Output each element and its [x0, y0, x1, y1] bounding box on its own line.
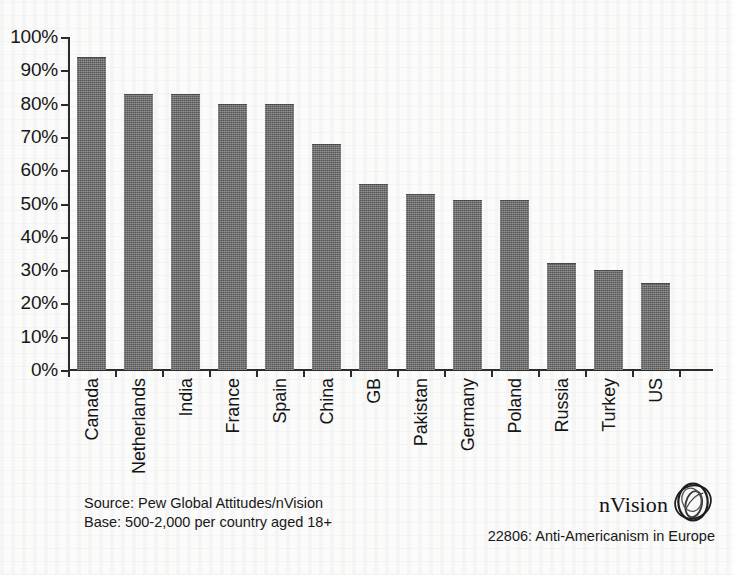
x-label-netherlands: Netherlands: [115, 378, 162, 483]
x-label-text: Netherlands: [128, 378, 149, 474]
bar-slot: [162, 37, 209, 370]
bar-pakistan[interactable]: [406, 194, 435, 370]
y-tick-mark: [61, 137, 68, 139]
y-tick-mark: [61, 303, 68, 305]
bar-slot: [256, 37, 303, 370]
y-tick-mark: [61, 337, 68, 339]
bars-group: [68, 37, 713, 370]
x-label-turkey: Turkey: [585, 378, 632, 483]
x-tick-mark: [68, 371, 70, 377]
bar-gb[interactable]: [359, 184, 388, 370]
bar-spain[interactable]: [265, 104, 294, 370]
y-tick-mark: [61, 237, 68, 239]
y-tick-mark: [61, 204, 68, 206]
bar-india[interactable]: [171, 94, 200, 370]
x-tick-mark: [538, 371, 540, 377]
x-label-text: India: [175, 378, 196, 417]
x-label-china: China: [303, 378, 350, 483]
x-tick-mark: [350, 371, 352, 377]
bar-chart: 0%10%20%30%40%50%60%70%80%90%100% Canada…: [0, 0, 733, 575]
bar-us[interactable]: [641, 283, 670, 370]
y-tick-label: 50%: [21, 192, 58, 214]
bar-slot: [585, 37, 632, 370]
x-label-france: France: [209, 378, 256, 483]
x-tick-mark: [632, 371, 634, 377]
bar-poland[interactable]: [500, 200, 529, 370]
bar-slot: [209, 37, 256, 370]
y-tick-label: 80%: [21, 92, 58, 114]
y-tick-label: 100%: [10, 26, 58, 48]
x-tick-mark: [397, 371, 399, 377]
x-label-text: Pakistan: [410, 378, 431, 446]
x-label-india: India: [162, 378, 209, 483]
y-tick-mark: [61, 70, 68, 72]
x-label-gb: GB: [350, 378, 397, 483]
x-label-text: France: [222, 378, 243, 433]
y-tick-mark: [61, 37, 68, 39]
bar-china[interactable]: [312, 144, 341, 370]
x-label-text: GB: [363, 378, 384, 404]
x-label-pakistan: Pakistan: [397, 378, 444, 483]
x-label-russia: Russia: [538, 378, 585, 483]
x-label-spain: Spain: [256, 378, 303, 483]
x-tick-mark: [444, 371, 446, 377]
base-line: Base: 500-2,000 per country aged 18+: [84, 513, 332, 532]
x-label-us: US: [632, 378, 679, 483]
bar-slot: [68, 37, 115, 370]
x-label-text: Poland: [504, 378, 525, 433]
bar-turkey[interactable]: [594, 270, 623, 370]
y-tick-label: 10%: [21, 325, 58, 347]
y-tick-label: 60%: [21, 159, 58, 181]
y-tick-mark: [61, 104, 68, 106]
x-tick-mark: [491, 371, 493, 377]
x-label-poland: Poland: [491, 378, 538, 483]
y-tick-label: 0%: [31, 359, 58, 381]
x-label-canada: Canada: [68, 378, 115, 483]
bar-slot: [115, 37, 162, 370]
x-tick-mark: [115, 371, 117, 377]
bar-slot: [491, 37, 538, 370]
y-tick-label: 40%: [21, 225, 58, 247]
y-tick-mark: [61, 170, 68, 172]
y-tick-label: 70%: [21, 125, 58, 147]
y-tick-label: 30%: [21, 259, 58, 281]
source-note: Source: Pew Global Attitudes/nVision Bas…: [84, 494, 332, 531]
bar-slot: [303, 37, 350, 370]
bar-canada[interactable]: [77, 57, 106, 370]
bar-slot: [350, 37, 397, 370]
x-label-text: Turkey: [598, 378, 619, 432]
bar-slot: [444, 37, 491, 370]
brand-row: nVision: [445, 486, 715, 524]
x-tick-mark: [303, 371, 305, 377]
x-tick-mark: [679, 371, 681, 377]
x-tick-mark: [585, 371, 587, 377]
y-tick-label: 20%: [21, 292, 58, 314]
x-tick-mark: [256, 371, 258, 377]
bar-netherlands[interactable]: [124, 94, 153, 370]
y-tick-label: 90%: [21, 59, 58, 81]
x-label-germany: Germany: [444, 378, 491, 483]
chart-caption: 22806: Anti-Americanism in Europe: [445, 528, 715, 544]
x-label-text: Canada: [81, 378, 102, 440]
bar-slot: [632, 37, 679, 370]
x-label-text: Spain: [269, 378, 290, 424]
x-label-text: Russia: [551, 378, 572, 432]
x-tick-mark: [162, 371, 164, 377]
source-line: Source: Pew Global Attitudes/nVision: [84, 494, 332, 513]
x-axis-labels: CanadaNetherlandsIndiaFranceSpainChinaGB…: [68, 378, 713, 483]
x-label-text: Germany: [457, 378, 478, 451]
bar-france[interactable]: [218, 104, 247, 370]
x-tick-mark: [209, 371, 211, 377]
bar-slot: [397, 37, 444, 370]
x-label-text: US: [645, 378, 666, 403]
brand-block: nVision 22806: Anti-Americanism in Europ…: [445, 486, 715, 544]
y-tick-mark: [61, 370, 68, 372]
bar-slot: [538, 37, 585, 370]
x-label-text: China: [316, 378, 337, 425]
bar-russia[interactable]: [547, 263, 576, 370]
bar-germany[interactable]: [453, 200, 482, 370]
nvision-sphere-logo-icon: [671, 480, 715, 524]
brand-name: nVision: [599, 492, 668, 518]
y-tick-mark: [61, 270, 68, 272]
